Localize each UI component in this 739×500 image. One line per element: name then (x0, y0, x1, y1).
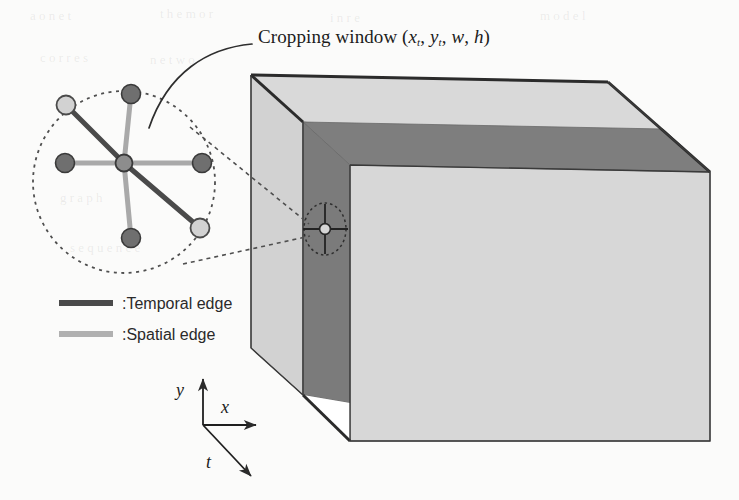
spatial-node-right (193, 154, 212, 173)
legend-label-spatial-edge: :Spatial edge (122, 326, 215, 344)
cube-front-face (350, 165, 710, 441)
temporal-edges (66, 105, 200, 228)
legend-label-temporal-edge: :Temporal edge (122, 295, 232, 313)
caption-comma-2: , (442, 26, 447, 47)
temporal-node-prev (57, 96, 76, 115)
center-node (116, 155, 133, 172)
figure-cropping-window-diagram: a o n e t t h e m o r i n r e m o d e l … (0, 0, 739, 500)
spatial-edges (65, 94, 202, 238)
temporal-node-next (191, 219, 210, 238)
spatial-node-down (122, 229, 141, 248)
axis-label-x: x (221, 397, 229, 418)
spatial-node-left (56, 154, 75, 173)
page-title: Cropping window (xt, yt, w, h) (258, 26, 490, 48)
temporal-edge-next (124, 163, 200, 228)
marker-center-node (320, 224, 331, 235)
param-w: w (451, 26, 464, 47)
param-yt: y (430, 26, 439, 47)
cube-left-back-face (251, 75, 303, 395)
temporal-edge-prev (66, 105, 124, 163)
caption-paren-close: ) (484, 26, 490, 47)
legend-swatches (59, 303, 113, 334)
magnified-graph-node-neighborhood (33, 85, 215, 274)
caption-comma-1: , (420, 26, 425, 47)
axis-label-t: t (206, 452, 211, 473)
axis-label-y: y (176, 380, 184, 401)
caption-text: Cropping window (258, 26, 397, 47)
spatial-edge-up (124, 94, 131, 163)
param-h: h (474, 26, 484, 47)
spatial-node-up (122, 85, 141, 104)
slab-left-face (303, 122, 350, 403)
video-volume-cube (251, 75, 710, 441)
slab-top-face (303, 122, 710, 172)
caption-leader-curve (149, 44, 252, 128)
param-xt: x (409, 26, 418, 47)
spatial-edge-down (124, 163, 131, 238)
caption-comma-3: , (464, 26, 469, 47)
diagram-canvas (0, 0, 739, 500)
